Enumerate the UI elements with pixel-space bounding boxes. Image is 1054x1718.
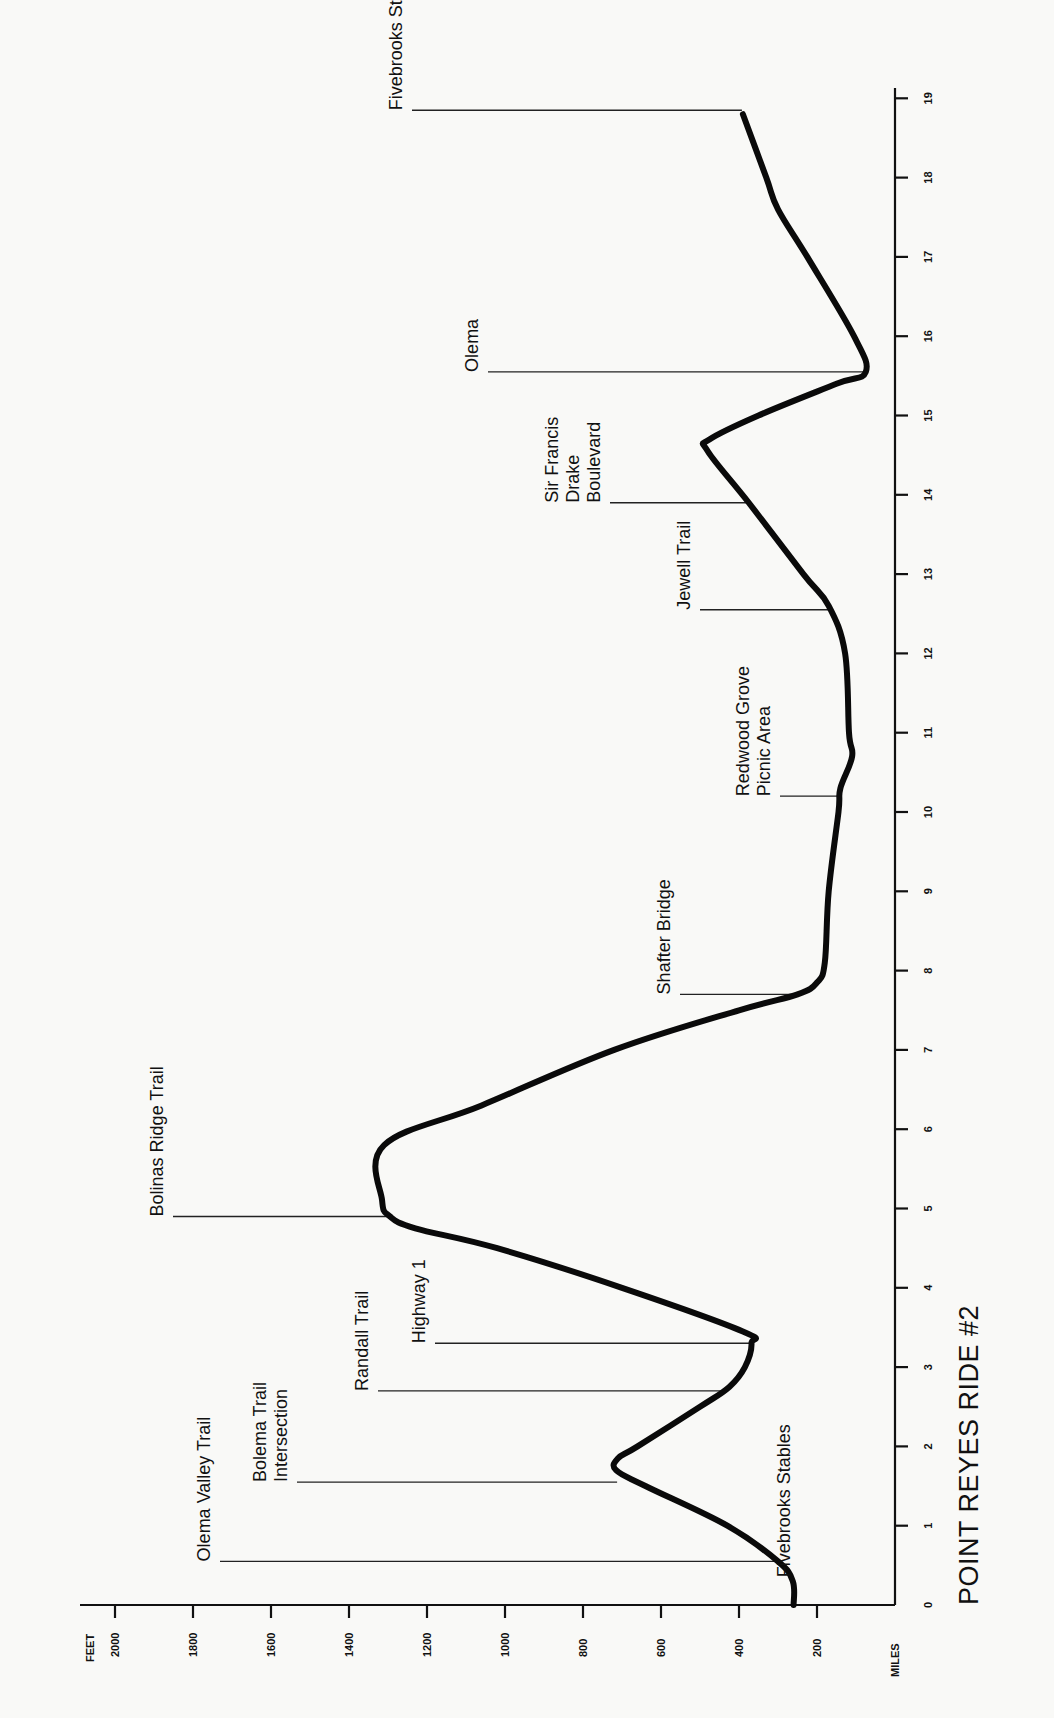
feet-tick-label: 1600 [265,1633,277,1657]
miles-tick-label: 16 [922,330,934,342]
landmark-label: Redwood Grove [733,666,753,796]
landmark-label: Highway 1 [409,1259,429,1343]
miles-tick-label: 19 [922,92,934,104]
feet-tick-label: 800 [577,1639,589,1657]
landmark-leaders [173,110,865,1561]
landmark-label: Olema [462,318,482,372]
miles-axis-title: MILES [889,1643,901,1677]
landmark-labels: Fivebrooks StablesOlema Valley TrailBole… [147,0,794,1577]
miles-tick-label: 10 [922,806,934,818]
feet-tick-label: 400 [733,1639,745,1657]
feet-axis-title: FEET [84,1634,96,1662]
miles-tick-label: 17 [922,251,934,263]
landmark-label: Bolinas Ridge Trail [147,1066,167,1216]
miles-tick-label: 7 [922,1047,934,1053]
miles-tick-label: 3 [922,1364,934,1370]
miles-tick-label: 14 [922,488,934,501]
feet-tick-label: 1200 [421,1633,433,1657]
miles-tick-label: 15 [922,409,934,421]
feet-tick-label: 1400 [343,1633,355,1657]
landmark-label: Bolema Trail [250,1382,270,1482]
landmark-label: Shafter Bridge [654,879,674,994]
miles-tick-label: 9 [922,888,934,894]
chart-title: POINT REYES RIDE #2 [954,1305,984,1605]
landmark-label: Boulevard [584,422,604,503]
miles-tick-label: 4 [922,1284,934,1291]
miles-tick-label: 0 [922,1602,934,1608]
feet-tick-label: 1000 [499,1633,511,1657]
landmark-label: Fivebrooks Stables [386,0,406,110]
miles-tick-label: 1 [922,1523,934,1529]
miles-tick-label: 8 [922,968,934,974]
miles-tick-label: 5 [922,1205,934,1211]
miles-tick-label: 2 [922,1443,934,1449]
feet-tick-label: 200 [811,1639,823,1657]
landmark-label: Jewell Trail [674,521,694,610]
elevation-profile-line [375,114,866,1605]
landmark-label: Sir Francis [542,417,562,503]
miles-tick-label: 11 [922,727,934,739]
miles-tick-label: 13 [922,568,934,580]
elevation-chart: 2004006008001000120014001600180020000123… [0,0,1054,1718]
feet-tick-label: 600 [655,1639,667,1657]
landmark-label: Randall Trail [352,1291,372,1391]
landmark-label: Picnic Area [754,705,774,796]
miles-tick-label: 18 [922,171,934,183]
miles-tick-label: 6 [922,1126,934,1132]
landmark-label: Drake [563,455,583,503]
miles-tick-label: 12 [922,647,934,659]
landmark-label: Fivebrooks Stables [774,1424,794,1577]
landmark-label: Olema Valley Trail [194,1417,214,1562]
feet-tick-label: 2000 [109,1633,121,1657]
feet-tick-label: 1800 [187,1633,199,1657]
landmark-label: Intersection [271,1389,291,1482]
